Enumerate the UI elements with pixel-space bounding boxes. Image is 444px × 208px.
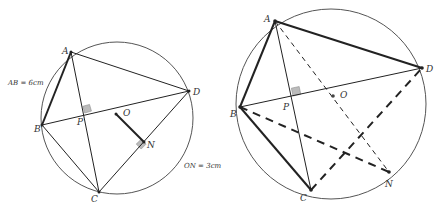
left-point-n — [143, 141, 146, 144]
right-label-b: B — [229, 109, 237, 119]
left-label-o: O — [123, 108, 131, 118]
left-point-a — [70, 51, 73, 54]
left-figure: A B C D P O N AB = 6cm ON = 3cm — [7, 42, 222, 204]
left-segment-ad — [71, 52, 189, 91]
left-label-c: C — [91, 194, 98, 204]
right-point-o — [331, 94, 335, 98]
right-label-a: A — [263, 14, 271, 24]
left-point-o — [115, 113, 118, 116]
label-on-length: ON = 3cm — [184, 162, 222, 170]
right-segment-ad — [275, 21, 422, 68]
right-label-p: P — [282, 102, 290, 112]
left-label-n: N — [146, 140, 156, 150]
right-dashed-cd — [311, 68, 422, 190]
left-segment-bd — [42, 91, 189, 125]
left-label-d: D — [192, 87, 200, 97]
left-right-angle-marker-p — [83, 104, 92, 113]
left-label-b: B — [33, 124, 41, 134]
right-point-n — [387, 170, 391, 174]
right-point-d — [420, 66, 424, 70]
right-label-n: N — [384, 179, 394, 189]
right-point-b — [238, 105, 242, 109]
right-label-d: D — [425, 64, 433, 74]
right-point-c — [309, 188, 313, 192]
left-segment-ab — [42, 52, 71, 125]
right-segment-ac — [275, 21, 311, 190]
left-point-c — [98, 191, 101, 194]
right-label-c: C — [300, 193, 307, 203]
right-segment-bc — [240, 107, 311, 190]
left-segment-ac — [71, 52, 99, 192]
label-ab-length: AB = 6cm — [7, 79, 44, 87]
right-point-a — [273, 19, 277, 23]
left-label-a: A — [61, 46, 69, 56]
right-dashed-bn — [240, 107, 389, 172]
left-segment-on — [116, 114, 144, 142]
right-figure: A B C D P O N — [229, 9, 433, 203]
left-point-b — [41, 124, 44, 127]
right-segment-bd — [240, 68, 422, 107]
left-label-p: P — [76, 117, 84, 127]
right-label-o: O — [340, 90, 348, 100]
left-segment-bc — [42, 125, 99, 192]
geometry-diagram: A B C D P O N AB = 6cm ON = 3cm A B C — [0, 0, 444, 208]
right-circumcircle — [236, 9, 426, 199]
left-point-d — [188, 90, 191, 93]
